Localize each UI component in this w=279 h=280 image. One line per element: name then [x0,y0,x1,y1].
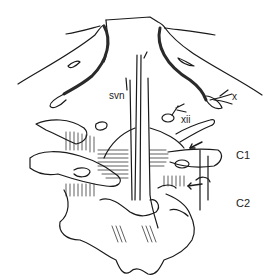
occiput [18,17,262,109]
ligament-hatching [66,132,184,242]
label-x: x [232,92,237,102]
vagus-nerve [210,90,232,104]
line-drawing [0,0,279,280]
atlas-c1 [30,120,221,187]
label-c2: C2 [236,198,250,209]
label-svn: svn [109,91,125,101]
anatomical-diagram: svn xii x C1 C2 [0,0,279,280]
label-xii: xii [181,115,190,125]
svn-bundle [126,52,158,228]
label-c1: C1 [236,150,250,161]
